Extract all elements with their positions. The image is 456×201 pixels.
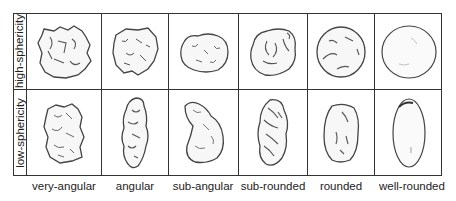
column-label-sub-rounded: sub-rounded [235,180,311,192]
column-label-rounded: rounded [308,180,374,192]
grain-low-well-rounded [375,90,442,176]
grain-high-well-rounded [375,14,442,89]
row-label-low-sphericity: low-sphericity [13,89,26,176]
grain-high-sub-rounded [239,14,307,89]
grain-low-sub-angular [169,90,238,176]
row-label-high-sphericity: high-sphericity [13,13,26,89]
column-label-very-angular: very-angular [27,180,101,192]
grain-high-sub-angular [169,14,238,89]
grain-high-rounded [308,14,374,89]
grain-high-angular [102,14,168,89]
column-label-well-rounded: well-rounded [372,180,452,192]
grain-low-angular [102,90,168,176]
grain-low-sub-rounded [239,90,307,176]
grain-high-very-angular [27,14,101,89]
grain-low-very-angular [27,90,101,176]
grain-low-rounded [308,90,374,176]
column-label-sub-angular: sub-angular [165,180,241,192]
column-label-angular: angular [102,180,168,192]
